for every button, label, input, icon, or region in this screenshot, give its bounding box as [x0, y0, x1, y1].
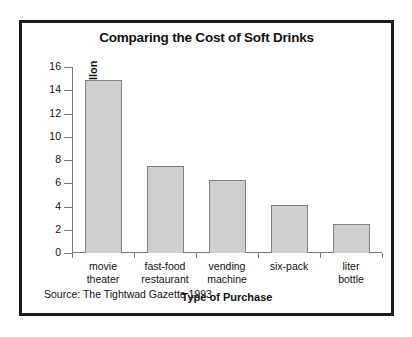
y-tick: 12: [64, 114, 72, 115]
y-tick-label: 0: [55, 246, 61, 258]
bar: [271, 205, 308, 253]
x-tick: [382, 253, 383, 258]
y-tick-label: 16: [49, 60, 61, 72]
y-tick: 14: [64, 90, 72, 91]
x-category-label: liter bottle: [320, 260, 382, 286]
x-category-label: six-pack: [258, 260, 320, 273]
y-axis-line: [72, 67, 73, 253]
y-tick-label: 14: [49, 83, 61, 95]
y-tick: 2: [64, 230, 72, 231]
bar: [147, 166, 184, 253]
y-tick-label: 2: [55, 223, 61, 235]
x-tick: [134, 253, 135, 258]
bar: [333, 224, 370, 253]
y-tick-label: 10: [49, 130, 61, 142]
plot-area: Dollars per gallon 0246810121416 movie t…: [72, 67, 382, 253]
y-tick-label: 6: [55, 176, 61, 188]
y-tick: 8: [64, 160, 72, 161]
x-tick: [258, 253, 259, 258]
x-tick: [72, 253, 73, 258]
chart-figure: Comparing the Cost of Soft Drinks Dollar…: [19, 20, 394, 316]
y-tick: 4: [64, 207, 72, 208]
chart-title: Comparing the Cost of Soft Drinks: [22, 30, 391, 45]
bar: [209, 180, 246, 253]
y-tick-label: 4: [55, 200, 61, 212]
y-tick: 6: [64, 183, 72, 184]
x-category-label: vending machine: [196, 260, 258, 286]
source-note: Source: The Tightwad Gazette 1993: [44, 288, 212, 300]
y-tick-label: 12: [49, 107, 61, 119]
x-category-label: movie theater: [72, 260, 134, 286]
y-tick: 0: [64, 253, 72, 254]
x-category-label: fast-food restaurant: [134, 260, 196, 286]
bar: [85, 80, 122, 253]
y-tick-label: 8: [55, 153, 61, 165]
y-tick: 16: [64, 67, 72, 68]
x-tick: [196, 253, 197, 258]
y-tick: 10: [64, 137, 72, 138]
x-tick: [320, 253, 321, 258]
